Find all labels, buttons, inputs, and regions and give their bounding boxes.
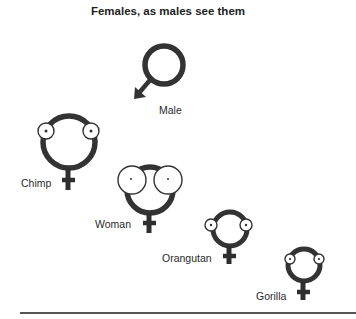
orangutan-symbol-icon: [205, 212, 252, 264]
orangutan-label: Orangutan: [162, 252, 212, 264]
chimp-label: Chimp: [21, 177, 51, 189]
gorilla-label: Gorilla: [256, 290, 286, 302]
male-label: Male: [159, 104, 182, 116]
male-symbol-icon: [134, 46, 183, 99]
gorilla-symbol-icon: [285, 249, 324, 300]
bottom-divider: [20, 312, 356, 314]
symbols-canvas: [0, 0, 356, 319]
woman-label: Woman: [95, 218, 131, 230]
woman-left-eye: [118, 166, 146, 194]
